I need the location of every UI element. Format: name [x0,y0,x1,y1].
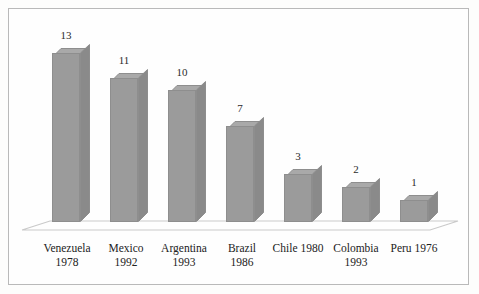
bar-front-face [342,187,370,222]
chart-figure: 13 11 [0,0,479,294]
bar-value-label: 11 [104,54,144,66]
bar-front-face [52,53,80,222]
bar-value-label: 7 [220,102,260,114]
bar-front-face [400,200,428,222]
bar-front-face [226,126,254,222]
bar-value-label: 2 [336,163,376,175]
category-label: Peru 1976 [371,241,457,255]
bar-value-label: 10 [162,66,202,78]
bar-side-face [138,69,147,222]
bar-side-face [196,81,205,222]
bar-side-face [312,165,321,222]
plot-area: 13 11 [0,0,479,294]
bar-front-face [168,90,196,222]
bar-front-face [110,78,138,222]
bar-value-label: 1 [394,176,434,188]
bar-side-face [80,44,89,222]
bar-side-face [428,191,437,222]
bar-value-label: 13 [46,29,86,41]
bar-front-face [284,174,312,222]
bar-side-face [370,178,379,222]
bar-side-face [254,117,263,222]
bar-value-label: 3 [278,150,318,162]
